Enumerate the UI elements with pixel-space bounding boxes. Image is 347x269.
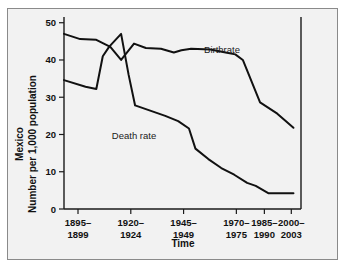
- x-tick-label-bottom: 1990: [254, 229, 275, 240]
- x-tick-label-top: 1970–: [223, 217, 249, 228]
- y-tick-label: 40: [45, 54, 56, 65]
- figure-container: Mexico Number per 1,000 population 01020…: [0, 0, 347, 269]
- series-label-birthrate: Birthrate: [204, 44, 240, 55]
- x-tick-label-top: 2000–: [278, 217, 304, 228]
- x-tick-label-bottom: 1924: [120, 229, 142, 240]
- x-tick-label-top: 1895–: [65, 217, 91, 228]
- y-tick-label: 30: [45, 92, 56, 103]
- line-chart: Mexico Number per 1,000 population 01020…: [8, 9, 336, 258]
- y-axis-label-line1: Mexico: [14, 127, 25, 161]
- y-tick-label: 0: [51, 204, 56, 215]
- x-tick-label-bottom: 2003: [281, 229, 302, 240]
- series-label-death-rate: Death rate: [112, 130, 156, 141]
- x-axis-title: Time: [171, 238, 195, 249]
- x-tick-label-top: 1945–: [170, 217, 196, 228]
- x-tick-label-bottom: 1899: [67, 229, 88, 240]
- y-tick-label: 50: [45, 17, 56, 28]
- y-tick-label: 10: [45, 166, 56, 177]
- chart-frame: Mexico Number per 1,000 population 01020…: [7, 8, 338, 260]
- y-axis-label-line2: Number per 1,000 population: [27, 75, 38, 213]
- x-tick-label-top: 1985–: [251, 217, 277, 228]
- x-tick-label-top: 1920–: [118, 217, 144, 228]
- x-tick-label-bottom: 1975: [226, 229, 248, 240]
- y-tick-label: 20: [45, 129, 56, 140]
